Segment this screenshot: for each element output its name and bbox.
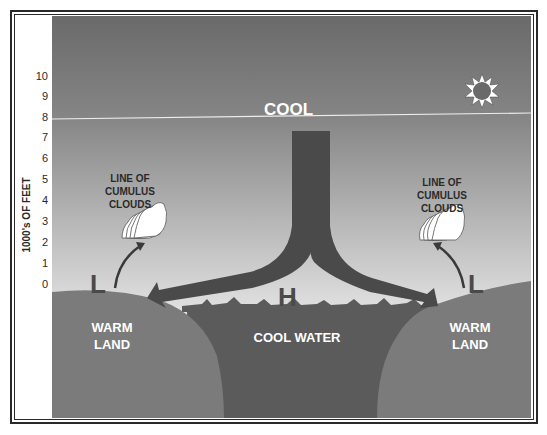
y-tick-10: 10 xyxy=(28,70,48,82)
y-tick-1: 1 xyxy=(28,257,48,269)
high-pressure-label: H xyxy=(278,284,297,310)
y-axis-label: 1000's OF FEET xyxy=(21,177,32,252)
cloud-label-left-line3: CLOUDS xyxy=(100,198,160,211)
y-tick-9: 9 xyxy=(28,90,48,102)
y-tick-8: 8 xyxy=(28,111,48,123)
scene-graphics xyxy=(52,16,531,418)
cloud-label-right-line2: CUMULUS xyxy=(412,189,472,202)
diagram-scene: COOL LINE OF CUMULUS CLOUDS LINE OF CUMU… xyxy=(52,16,531,418)
cloud-label-left-line1: LINE OF xyxy=(100,172,160,185)
low-pressure-right-label: L xyxy=(468,271,484,297)
cloud-label-right-line1: LINE OF xyxy=(412,176,472,189)
y-tick-7: 7 xyxy=(28,131,48,143)
cool-air-label: COOL xyxy=(264,100,313,120)
warm-land-right-line2: LAND xyxy=(440,336,500,353)
y-tick-6: 6 xyxy=(28,152,48,164)
warm-land-left-line1: WARM xyxy=(82,319,142,336)
low-pressure-left-label: L xyxy=(90,271,106,297)
cloud-label-left-line2: CUMULUS xyxy=(100,185,160,198)
warm-land-left-line2: LAND xyxy=(82,336,142,353)
cloud-label-right-line3: CLOUDS xyxy=(412,202,472,215)
y-tick-0: 0 xyxy=(28,278,48,290)
cool-water-label: COOL WATER xyxy=(237,329,357,346)
warm-land-right-line1: WARM xyxy=(440,319,500,336)
